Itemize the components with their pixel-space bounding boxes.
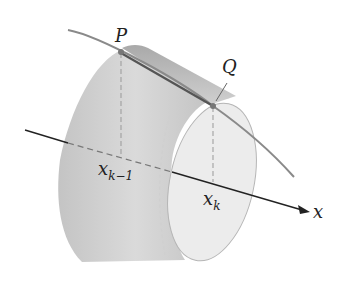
label-p: P	[115, 27, 127, 45]
diagram-canvas	[0, 0, 345, 290]
label-x-k: xk	[203, 190, 220, 212]
label-q: Q	[222, 58, 237, 76]
x-axis-arrowhead	[298, 205, 310, 214]
point-q	[210, 103, 216, 109]
point-p	[118, 49, 124, 55]
frustum-diagram: P Q xk−1 xk x	[0, 0, 345, 290]
label-x-k-minus-1: xk−1	[98, 160, 133, 182]
label-x-axis: x	[313, 203, 323, 221]
x-axis-front-left	[25, 130, 68, 143]
